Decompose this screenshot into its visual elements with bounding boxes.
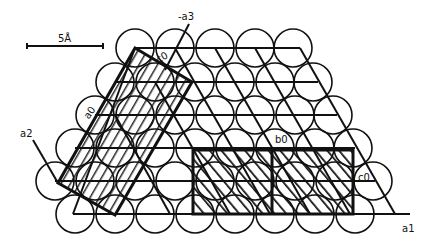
axis-a2-label: a2 [20, 128, 33, 139]
label-c0-right: c0 [358, 172, 370, 183]
lattice-svg: a1 a2 -a3 c0 a0 b0 c0 5Å [0, 0, 430, 250]
scale-bar-label: 5Å [58, 32, 71, 44]
axis-a1: a1 [395, 214, 415, 234]
axis-a1-label: a1 [402, 223, 415, 234]
label-b0: b0 [275, 134, 288, 145]
scale-bar: 5Å [27, 32, 103, 49]
axis-neg-a3-label: -a3 [178, 11, 194, 22]
axis-a2: a2 [20, 128, 58, 183]
lattice-diagram: a1 a2 -a3 c0 a0 b0 c0 5Å [0, 0, 430, 250]
